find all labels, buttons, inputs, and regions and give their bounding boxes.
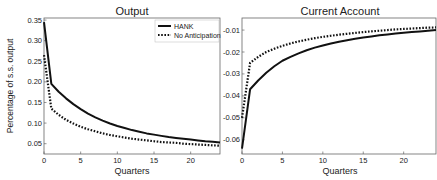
x-tick-label: 10 bbox=[113, 156, 121, 165]
x-tick-label: 5 bbox=[79, 156, 83, 165]
chart-title: Current Account bbox=[301, 5, 380, 17]
x-tick-label: 5 bbox=[280, 156, 284, 165]
x-axis-label: Quarters bbox=[114, 166, 150, 176]
x-tick-label: 20 bbox=[186, 156, 194, 165]
legend-label-hank: HANK bbox=[174, 23, 194, 30]
y-tick-label: -0.06 bbox=[223, 135, 240, 144]
chart-title: Output bbox=[115, 5, 148, 17]
y-tick-label: 0.05 bbox=[27, 139, 42, 148]
legend: HANK No Anticipation bbox=[155, 20, 221, 42]
x-tick-label: 0 bbox=[240, 156, 244, 165]
y-tick-label: 0.15 bbox=[27, 98, 42, 107]
y-tick-label: -0.05 bbox=[223, 113, 240, 122]
x-tick-label: 10 bbox=[319, 156, 327, 165]
x-axis-label: Quarters bbox=[322, 166, 358, 176]
x-tick-label: 20 bbox=[399, 156, 407, 165]
y-tick-label: 0.20 bbox=[27, 77, 42, 86]
output-chart: Output 0.050.100.150.200.250.300.35 0510… bbox=[5, 5, 221, 176]
current-account-chart: Current Account -0.06-0.05-0.04-0.03-0.0… bbox=[223, 5, 436, 176]
y-tick-label: 0.35 bbox=[27, 16, 42, 25]
figure: Output 0.050.100.150.200.250.300.35 0510… bbox=[0, 0, 437, 180]
y-axis-ticks: -0.06-0.05-0.04-0.03-0.02-0.01 bbox=[223, 26, 245, 145]
y-axis-label: Percentage of s.s. output bbox=[5, 38, 15, 133]
y-tick-label: 0.25 bbox=[27, 57, 42, 66]
y-tick-label: 0.30 bbox=[27, 36, 42, 45]
y-tick-label: -0.01 bbox=[223, 26, 240, 35]
y-tick-label: -0.02 bbox=[223, 48, 240, 57]
x-tick-label: 15 bbox=[150, 156, 158, 165]
y-tick-label: 0.10 bbox=[27, 119, 42, 128]
x-tick-label: 0 bbox=[42, 156, 46, 165]
series-lines bbox=[242, 27, 436, 148]
y-tick-label: -0.04 bbox=[223, 91, 240, 100]
no-anticipation-line bbox=[44, 55, 220, 146]
x-axis-ticks: 05101520 bbox=[42, 152, 195, 166]
hank-line bbox=[242, 30, 436, 148]
plot-frame bbox=[242, 18, 436, 154]
x-axis-ticks: 05101520 bbox=[240, 152, 408, 166]
y-tick-label: -0.03 bbox=[223, 69, 240, 78]
x-tick-label: 15 bbox=[359, 156, 367, 165]
legend-label-no-anticipation: No Anticipation bbox=[174, 32, 221, 40]
